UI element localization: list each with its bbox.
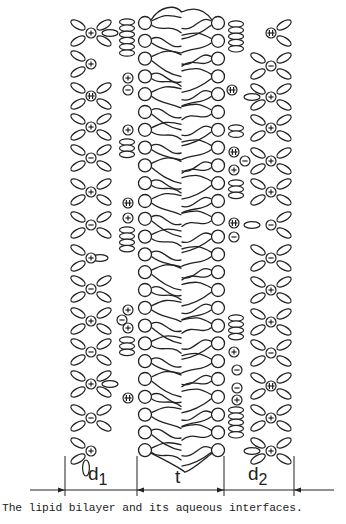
water-molecule-bound [229,180,244,186]
anion-icon [86,413,96,423]
water-molecule-hydration [95,81,112,95]
water-molecule-hydration [275,291,292,305]
tail-right [182,150,212,160]
head-group-left [139,301,152,314]
tail-right [182,43,212,53]
water-molecule-hydration [249,129,266,143]
water-molecule-hydration [95,226,112,240]
zwitterion-icon [229,147,239,157]
head-group-right [212,301,225,314]
tail-left [152,363,182,375]
water-molecule-hydration [95,143,112,157]
tail-left [152,16,182,21]
water-molecule-hydration [275,146,292,160]
water-molecule-hydration [275,177,292,191]
cation-icon [266,156,276,166]
head-group-right [212,355,225,368]
cation-icon [86,446,96,456]
water-molecule-hydration [249,323,266,337]
water-molecule-hydration [275,34,292,48]
tail-right [182,175,212,181]
cation-icon [86,59,96,69]
water-molecule-hydration [69,18,86,32]
water-molecule-hydration [69,34,86,48]
water-molecule-hydration [69,177,86,191]
tail-right [182,425,212,431]
head-group-left [139,444,152,457]
tail-left [152,43,182,55]
tail-left [152,417,182,429]
water-molecule-hydration [275,338,292,352]
head-group-left [139,159,152,172]
head-group-left [139,248,152,261]
water-molecule-hydration [275,82,292,96]
water-molecule-hydration [69,259,86,273]
water-molecule-bound [120,145,135,151]
head-group-left [139,17,152,30]
arrow-right-icon [217,488,224,493]
water-molecule-hydration [275,436,292,450]
water-molecule-hydration [69,193,86,207]
cation-icon [86,187,96,197]
water-molecule-hydration [69,419,86,433]
head-group-right [212,248,225,261]
anion-icon [86,153,96,163]
water-molecule-hydration [69,65,86,79]
water-molecule-bound [120,245,135,251]
head-group-right [212,17,225,30]
head-group-right [212,266,225,279]
cation-icon [266,123,276,133]
water-molecule-hydration [249,371,266,385]
water-molecule-hydration [275,98,292,112]
water-molecule-hydration [249,338,266,352]
tail-right [182,381,212,387]
water-molecule-hydration [275,243,292,257]
tail-right [182,167,212,173]
water-molecule-bound [229,125,244,131]
head-group-left [139,88,152,101]
water-molecule-bound [120,239,135,245]
cation-icon [266,317,276,327]
water-molecule-hydration [275,354,292,368]
head-group-left [139,319,152,332]
cation-icon [266,285,276,295]
water-molecule-bound [229,315,244,321]
water-molecule-hydration [95,112,112,126]
water-molecule-free [244,448,260,455]
head-group-left [139,230,152,243]
water-molecule-hydration [249,259,266,273]
water-molecule-bound [120,44,135,50]
water-molecule-hydration [249,403,266,417]
water-molecule-bound [229,27,244,33]
water-molecule-hydration [275,371,292,385]
lipid-tails [151,7,212,472]
cation-icon [123,213,133,223]
zwitterion-icon [227,85,237,95]
water-molecule-hydration [249,354,266,368]
water-molecule-hydration [95,403,112,417]
water-molecule-hydration [275,275,292,289]
arrow-left-icon [137,488,144,493]
water-molecule-bound [229,413,244,419]
water-molecule-bound [120,25,135,31]
head-group-right [212,408,225,421]
water-molecule-hydration [275,387,292,401]
zwitterion-icon [266,381,276,391]
water-molecule-bound [229,131,244,137]
tail-left [152,345,182,353]
tail-left [152,322,182,331]
tail-left [152,194,182,199]
cation-icon [123,305,133,315]
arrow-left-icon [294,488,301,493]
water-molecule-free [244,94,260,101]
water-molecule-hydration [95,193,112,207]
tail-right [182,221,212,227]
head-group-right [212,52,225,65]
water-molecule-hydration [249,243,266,257]
water-molecule-hydration [275,323,292,337]
water-molecule-hydration [95,159,112,173]
water-molecule-hydration [275,210,292,224]
diagram-canvas: d1 t d2 [0,0,346,496]
anion-icon [123,85,133,95]
water-molecule-hydration [249,113,266,127]
